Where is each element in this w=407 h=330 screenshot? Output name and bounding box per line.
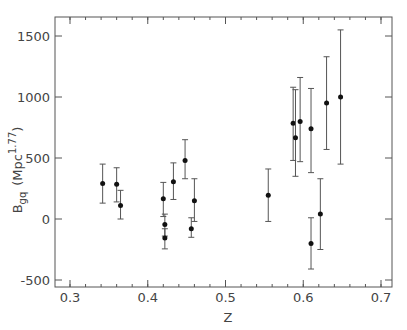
y-axis-label-sub: gq xyxy=(17,192,28,205)
svg-text:Bgq(Mpc1.77): Bgq(Mpc1.77) xyxy=(7,127,28,214)
x-axis-ticks: 0.30.40.50.60.7 xyxy=(60,17,392,305)
data-point xyxy=(170,163,176,200)
data-point xyxy=(188,218,194,238)
data-point xyxy=(324,57,330,150)
data-point xyxy=(114,168,120,202)
x-tick-label: 0.6 xyxy=(293,290,314,305)
y-tick-label: 0 xyxy=(42,212,50,227)
y-tick-label: -500 xyxy=(20,273,50,288)
x-tick-label: 0.5 xyxy=(215,290,236,305)
data-point xyxy=(265,169,271,221)
data-point xyxy=(191,179,197,222)
y-axis-label-exponent: 1.77 xyxy=(7,132,18,154)
y-tick-label: 500 xyxy=(25,151,50,166)
y-axis-label-close: ) xyxy=(10,127,25,132)
data-point xyxy=(160,182,166,216)
y-axis-label: Bgq(Mpc1.77) xyxy=(7,127,28,214)
y-axis-label-main: B xyxy=(10,204,25,213)
y-tick-label: 1500 xyxy=(17,29,50,44)
data-point xyxy=(308,218,314,269)
y-tick-label: 1000 xyxy=(17,90,50,105)
x-tick-label: 0.7 xyxy=(371,290,392,305)
scatter-chart: 0.30.40.50.60.7 -500050010001500 Z Bgq(M… xyxy=(0,0,407,330)
data-point xyxy=(162,229,168,249)
x-tick-label: 0.3 xyxy=(60,290,81,305)
data-points xyxy=(100,30,344,269)
y-axis-label-unit: (Mpc xyxy=(10,154,25,186)
data-point xyxy=(338,30,344,164)
data-point xyxy=(308,88,314,172)
data-point xyxy=(317,179,323,250)
data-point xyxy=(118,190,124,219)
x-tick-label: 0.4 xyxy=(137,290,158,305)
data-point xyxy=(100,164,106,203)
x-axis-label: Z xyxy=(224,310,233,325)
y-axis-ticks: -500050010001500 xyxy=(17,29,392,288)
data-point xyxy=(182,140,188,179)
plot-frame xyxy=(55,17,392,287)
